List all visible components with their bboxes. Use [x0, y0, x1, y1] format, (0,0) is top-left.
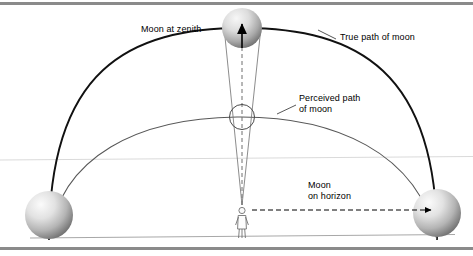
perceived-path-leader: [277, 105, 296, 114]
moon-sphere-left-horizon: [25, 191, 73, 239]
label-moon-at-zenith: Moon at zenith: [141, 24, 201, 35]
observer-figure: [236, 207, 249, 238]
ground-line: [30, 235, 455, 239]
label-perceived-path: Perceived path of moon: [299, 93, 360, 115]
label-true-path: True path of moon: [340, 32, 415, 43]
label-moon-on-horizon: Moon on horizon: [308, 180, 351, 202]
moon-sphere-right-horizon: [413, 189, 461, 237]
sky-horizon-line: [0, 157, 473, 161]
